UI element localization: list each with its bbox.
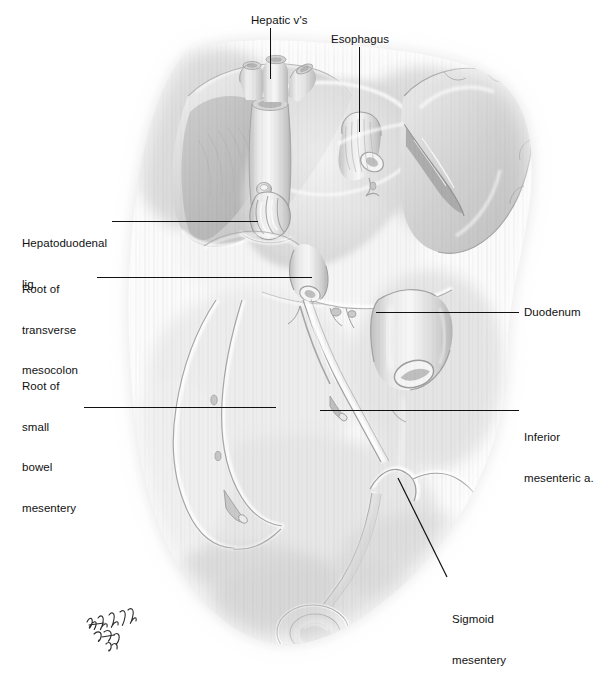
- illustration-plate: [0, 0, 610, 699]
- leader-hepatoduodenal-lig: [112, 221, 258, 222]
- label-sigmoid-mesentery-line2: mesentery: [452, 654, 506, 668]
- label-inferior-mesenteric-artery-line1: Inferior: [524, 431, 594, 445]
- label-small-bowel-mesentery-line3: bowel: [22, 461, 76, 475]
- label-sigmoid-mesentery: Sigmoid mesentery: [452, 586, 506, 694]
- label-root-of-small-bowel-mesentery: Root of small bowel mesentery: [22, 353, 76, 542]
- label-duodenum-text: Duodenum: [524, 306, 581, 318]
- label-sigmoid-mesentery-line1: Sigmoid: [452, 613, 506, 627]
- label-small-bowel-mesentery-line1: Root of: [22, 380, 76, 394]
- label-esophagus-text: Esophagus: [331, 33, 389, 45]
- label-transverse-mesocolon-line1: Root of: [22, 283, 78, 297]
- label-inferior-mesenteric-artery: Inferior mesenteric a.: [524, 404, 594, 512]
- anatomical-figure: Hepatic v's Esophagus Hepatoduodenal lig…: [0, 0, 610, 699]
- label-duodenum: Duodenum: [524, 306, 581, 320]
- leader-inferior-mesenteric-a: [320, 410, 519, 411]
- label-inferior-mesenteric-artery-line2: mesenteric a.: [524, 472, 594, 486]
- label-esophagus: Esophagus: [331, 33, 389, 47]
- label-small-bowel-mesentery-line4: mesentery: [22, 502, 76, 516]
- label-hepatic-veins: Hepatic v's: [251, 14, 307, 28]
- artist-signature: [84, 604, 154, 654]
- label-hepatoduodenal-ligament-line1: Hepatoduodenal: [22, 237, 107, 251]
- leader-esophagus: [359, 47, 360, 132]
- label-transverse-mesocolon-line2: transverse: [22, 324, 78, 338]
- leader-transverse-mesocolon: [97, 277, 312, 278]
- leader-hepatic-veins: [270, 28, 271, 79]
- label-hepatic-veins-text: Hepatic v's: [251, 14, 307, 26]
- leader-small-bowel-mesentery: [84, 407, 276, 408]
- label-small-bowel-mesentery-line2: small: [22, 421, 76, 435]
- leader-duodenum: [376, 312, 519, 313]
